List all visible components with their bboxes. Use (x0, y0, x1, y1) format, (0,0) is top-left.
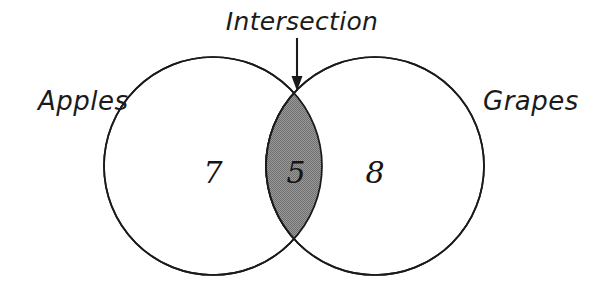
intersection-arrow-icon (292, 38, 303, 91)
grapes-only-count: 8 (365, 155, 384, 190)
intersection-callout-label: Intersection (226, 7, 378, 36)
venn-diagram-figure: Apples Grapes 7 5 8 Intersection (0, 0, 599, 289)
apples-only-count: 7 (203, 155, 223, 190)
grapes-set-label: Grapes (483, 86, 579, 116)
venn-diagram-canvas: Apples Grapes 7 5 8 Intersection (0, 0, 599, 289)
intersection-count: 5 (286, 155, 305, 190)
apples-set-label: Apples (36, 86, 129, 116)
